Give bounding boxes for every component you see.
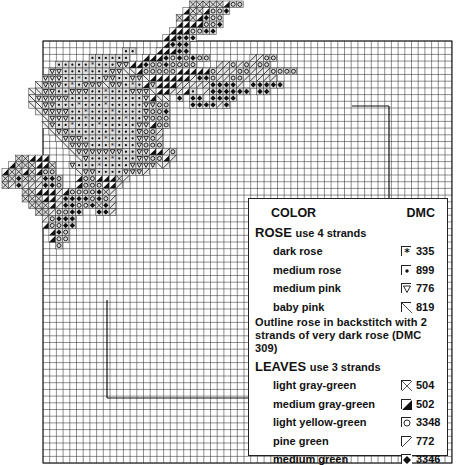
dmc-code: 502 — [416, 398, 434, 410]
dmc-code: 899 — [416, 264, 434, 276]
color-name: light gray-green — [273, 379, 356, 391]
backslash-icon — [401, 302, 411, 312]
color-name: pine green — [273, 435, 329, 447]
filled-dot-icon — [401, 265, 411, 275]
legend-row-medium-green: medium green3346 — [273, 453, 439, 465]
color-name: light yellow-green — [273, 416, 367, 428]
color-name: baby pink — [273, 301, 324, 313]
legend-row-dark-rose: dark rose*335 — [273, 245, 439, 261]
rose-strands: use 4 strands — [295, 227, 366, 239]
leaves-section-title: LEAVES use 3 strands — [255, 359, 381, 374]
dmc-code: 3346 — [416, 453, 440, 465]
dmc-column-label: DMC — [407, 206, 435, 220]
legend-row-baby-pink: baby pink819 — [273, 301, 439, 317]
color-name: medium green — [273, 453, 348, 465]
circle-icon — [401, 417, 411, 427]
legend-row-medium-rose: medium rose899 — [273, 264, 439, 280]
leaves-title: LEAVES — [255, 359, 306, 374]
legend-row-light-yellow-green: light yellow-green3348 — [273, 416, 439, 432]
dmc-code: 776 — [416, 282, 434, 294]
backstitch-note: Outline rose in backstitch with 2 strand… — [255, 316, 445, 355]
slash-icon — [401, 436, 411, 446]
dmc-code: 772 — [416, 435, 434, 447]
legend-row-pine-green: pine green772 — [273, 435, 439, 451]
svg-text:*: * — [404, 247, 410, 257]
legend-row-medium-pink: medium pink776 — [273, 282, 439, 298]
color-key-legend: COLOR DMC ROSE use 4 strands dark rose*3… — [248, 198, 448, 456]
color-name: medium gray-green — [273, 398, 375, 410]
color-column-label: COLOR — [271, 206, 316, 220]
color-name: dark rose — [273, 245, 323, 257]
legend-row-medium-gray-green: medium gray-green502 — [273, 398, 439, 414]
half-black-icon — [401, 399, 411, 409]
dmc-code: 504 — [416, 379, 434, 391]
dmc-code: 335 — [416, 245, 434, 257]
leaves-strands: use 3 strands — [310, 361, 381, 373]
legend-row-light-gray-green: light gray-green504 — [273, 379, 439, 395]
triangle-down-icon — [401, 283, 411, 293]
color-name: medium rose — [273, 264, 341, 276]
rose-section-title: ROSE use 4 strands — [255, 225, 366, 240]
rose-title: ROSE — [255, 225, 292, 240]
dmc-code: 819 — [416, 301, 434, 313]
x-cross-icon — [401, 380, 411, 390]
color-name: medium pink — [273, 282, 341, 294]
dmc-code: 3348 — [416, 416, 440, 428]
star-box-icon: * — [401, 246, 411, 256]
diamond-black-icon — [401, 454, 411, 464]
